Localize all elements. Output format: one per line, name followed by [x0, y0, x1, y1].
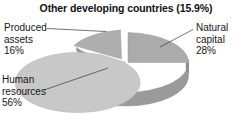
slice-label-natural-capital: Natural capital 28%	[196, 22, 228, 57]
leader-line-produced-assets	[47, 29, 106, 32]
slice-label-natural-capital-value: 28%	[196, 45, 228, 57]
slice-label-human-resources-line1: Human	[2, 74, 46, 86]
leader-line-natural-capital	[160, 30, 193, 48]
slice-label-natural-capital-line1: Natural	[196, 22, 228, 34]
slice-label-human-resources: Human resources 56%	[2, 74, 46, 109]
slice-label-human-resources-value: 56%	[2, 97, 46, 109]
pie-chart-figure: Other developing countries (15.9%)	[0, 0, 252, 124]
slice-label-human-resources-line2: resources	[2, 86, 46, 98]
slice-label-produced-assets-line2: assets	[4, 34, 47, 46]
slice-label-produced-assets: Produced assets 16%	[4, 22, 47, 57]
slice-label-produced-assets-line1: Produced	[4, 22, 47, 34]
slice-label-produced-assets-value: 16%	[4, 45, 47, 57]
slice-label-natural-capital-line2: capital	[196, 34, 228, 46]
